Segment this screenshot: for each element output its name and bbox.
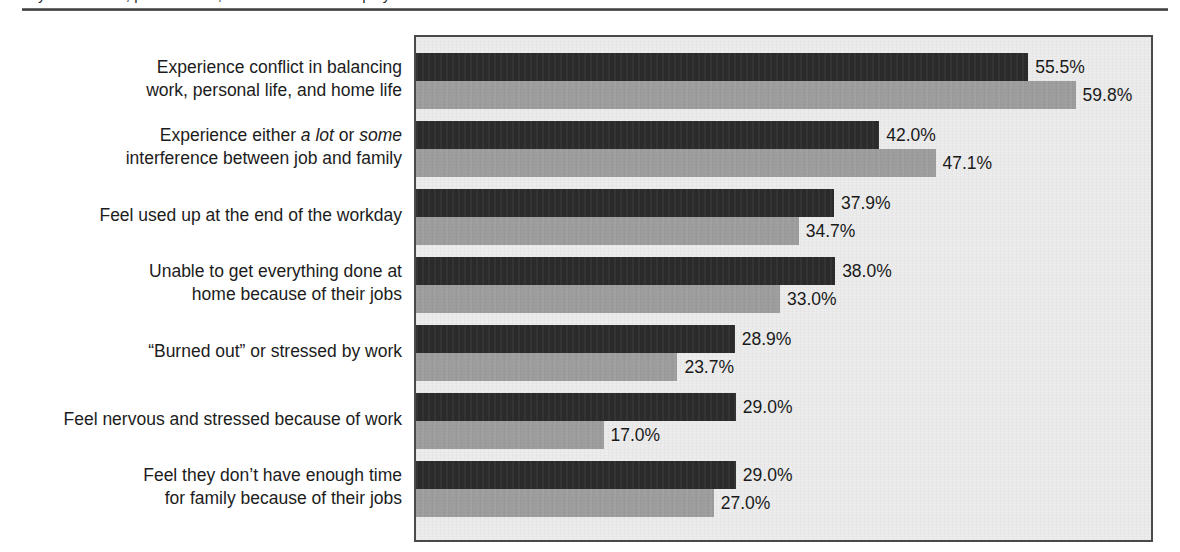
bar-series-1-5 bbox=[416, 393, 736, 421]
category-axis-labels: Experience conflict in balancingwork, pe… bbox=[0, 35, 408, 542]
bar-group: 37.9%34.7% bbox=[416, 189, 1151, 245]
bar-value-label: 29.0% bbox=[736, 393, 793, 421]
bar-series-2-5 bbox=[416, 421, 604, 449]
bar-group: 29.0%17.0% bbox=[416, 393, 1151, 449]
bar-value-label: 23.7% bbox=[677, 353, 734, 381]
bar-value-label: 34.7% bbox=[799, 217, 856, 245]
bar-value-label: 29.0% bbox=[736, 461, 793, 489]
bar-value-label: 37.9% bbox=[834, 189, 891, 217]
bar-value-label: 27.0% bbox=[714, 489, 771, 517]
clipped-header-title: y of the work, personal life, and home l… bbox=[38, 0, 1138, 3]
bar-series-1-0 bbox=[416, 53, 1028, 81]
plot-area: 55.5%59.8%42.0%47.1%37.9%34.7%38.0%33.0%… bbox=[414, 35, 1153, 542]
category-label-6: Feel they don’t have enough timefor fami… bbox=[143, 464, 402, 510]
bar-series-1-2 bbox=[416, 189, 834, 217]
bar-value-label: 59.8% bbox=[1076, 81, 1133, 109]
bar-group: 29.0%27.0% bbox=[416, 461, 1151, 517]
category-label-1: Experience either a lot or someinterfere… bbox=[126, 124, 402, 170]
bar-value-label: 38.0% bbox=[835, 257, 892, 285]
bar-series-1-4 bbox=[416, 325, 735, 353]
header-rule bbox=[22, 8, 1168, 11]
category-label-3: Unable to get everything done athome bec… bbox=[149, 260, 402, 306]
bar-value-label: 33.0% bbox=[780, 285, 837, 313]
category-label-4: “Burned out” or stressed by work bbox=[148, 340, 402, 363]
bar-group: 42.0%47.1% bbox=[416, 121, 1151, 177]
bar-series-2-1 bbox=[416, 149, 936, 177]
category-label-5: Feel nervous and stressed because of wor… bbox=[63, 408, 402, 431]
bar-value-label: 28.9% bbox=[735, 325, 792, 353]
page-header: y of the work, personal life, and home l… bbox=[0, 0, 1180, 14]
category-label-2: Feel used up at the end of the workday bbox=[99, 204, 402, 227]
bar-value-label: 17.0% bbox=[604, 421, 661, 449]
bar-series-2-0 bbox=[416, 81, 1076, 109]
bar-series-1-6 bbox=[416, 461, 736, 489]
bar-series-2-3 bbox=[416, 285, 780, 313]
bar-group: 55.5%59.8% bbox=[416, 53, 1151, 109]
bar-series-1-3 bbox=[416, 257, 835, 285]
bar-series-2-2 bbox=[416, 217, 799, 245]
bar-value-label: 55.5% bbox=[1028, 53, 1085, 81]
bar-group: 28.9%23.7% bbox=[416, 325, 1151, 381]
bar-group: 38.0%33.0% bbox=[416, 257, 1151, 313]
bar-value-label: 47.1% bbox=[936, 149, 993, 177]
category-label-0: Experience conflict in balancingwork, pe… bbox=[146, 56, 402, 102]
bar-series-2-6 bbox=[416, 489, 714, 517]
grouped-bar-chart: Experience conflict in balancingwork, pe… bbox=[0, 14, 1180, 552]
bar-series-2-4 bbox=[416, 353, 677, 381]
bar-value-label: 42.0% bbox=[879, 121, 936, 149]
bar-series-1-1 bbox=[416, 121, 879, 149]
